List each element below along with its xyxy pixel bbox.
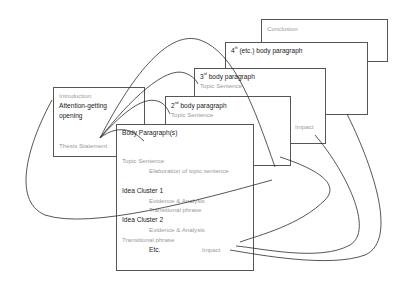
thesis-statement: Thesis Statement [59,143,107,149]
body-elaboration: Elaboration of topic sentence [149,168,229,174]
ordinal-suffix: rd [204,72,207,76]
transitional-phrase-2: Transitional phrase [122,237,174,243]
idea-cluster-2: Idea Cluster 2 [122,217,163,224]
title-text: (etc.) body paragraph [238,47,303,54]
conclusion-title: Conclusion [267,26,298,32]
third-topic-sentence: Topic Sentence [200,83,242,89]
body-topic-sentence: Topic Sentence [122,158,164,164]
body-paragraph-box: Body Paragraph(s) Topic Sentence Elabora… [116,124,254,271]
introduction-title: Introduction [59,93,91,99]
ordinal-suffix: th [235,46,238,50]
third-body-paragraph-title: 3rd body paragraph [200,74,255,81]
transitional-phrase-1: Transitional phrase [149,207,201,213]
second-body-paragraph-title: 2nd body paragraph [171,103,227,110]
evidence-analysis-2: Evidence & Analysis [149,227,205,233]
fourth-body-paragraph-title: 4th (etc.) body paragraph [231,48,302,55]
body-impact: Impact [202,247,221,253]
evidence-analysis-1: Evidence & Analysis [149,198,205,204]
title-text: body paragraph [207,73,255,80]
body-paragraph-title: Body Paragraph(s) [122,130,177,137]
idea-cluster-1: Idea Cluster 1 [122,188,163,195]
title-text: body paragraph [179,102,227,109]
attention-getting-line1: Attention-getting [59,103,107,110]
attention-getting-line2: opening [59,113,82,120]
ordinal-suffix: nd [175,101,179,105]
third-impact: Impact [295,124,314,130]
second-topic-sentence: Topic Sentence [171,112,213,118]
etc-label: Etc. [149,247,160,254]
